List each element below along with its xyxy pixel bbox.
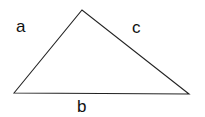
triangle-shape [14,10,189,94]
side-label-c: c [132,18,141,37]
side-label-a: a [16,17,26,36]
triangle-diagram: a c b [0,0,205,117]
side-label-b: b [77,97,86,116]
